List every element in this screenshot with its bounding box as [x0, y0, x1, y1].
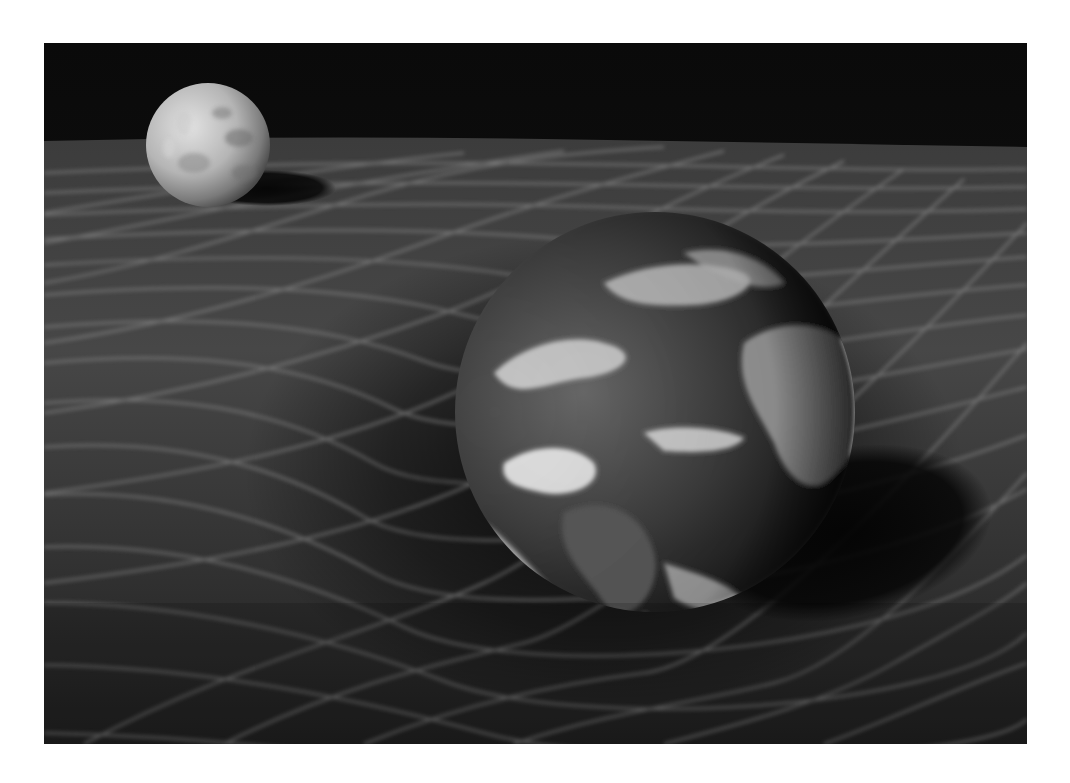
- moon: [146, 83, 270, 207]
- vignette: [44, 603, 1027, 744]
- scene-canvas: [44, 43, 1027, 744]
- spacetime-illustration: [44, 43, 1027, 744]
